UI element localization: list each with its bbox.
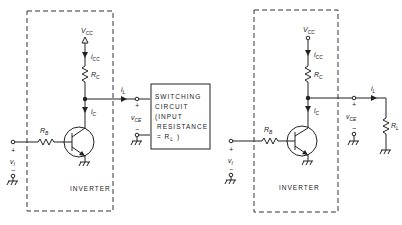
vi-minus: − [229, 166, 233, 173]
il-arrow-icon [371, 95, 377, 101]
vce-label: vCE [131, 114, 142, 123]
vce-label: vCE [346, 113, 357, 122]
box-line-2: CIRCUIT [155, 103, 188, 110]
emitter-ground-icon [302, 161, 313, 165]
ic-arrow-icon [305, 106, 311, 112]
vce-minus: − [352, 125, 356, 132]
right-circuit: VCC iCC RC iL RL iC [225, 10, 399, 212]
rc-resistor-icon [305, 66, 311, 82]
icc-label: iCC [91, 53, 100, 62]
icc-label: iCC [314, 51, 323, 60]
vcc-label: VCC [303, 26, 315, 35]
icc-arrow-icon [82, 52, 88, 58]
left-circuit: VCC iCC RC iL iC RB [7, 11, 210, 211]
box-line-5: = RL ) [157, 133, 180, 142]
vce-plus: + [352, 101, 356, 108]
icc-arrow-icon [305, 50, 311, 56]
vi-plus: + [229, 146, 233, 153]
il-label: iL [121, 86, 126, 95]
vcc-terminal-icon [82, 37, 88, 43]
output-terminal [135, 97, 139, 101]
vcc-terminal-icon [306, 36, 310, 40]
rc-label: RC [314, 71, 323, 80]
rc-label: RC [91, 71, 100, 80]
vi-minus: − [11, 167, 15, 174]
vcc-label: VCC [81, 27, 93, 36]
inverter-boundary [27, 11, 113, 211]
vi-label: vI [10, 158, 16, 167]
inverter-circuit-diagram: VCC iCC RC iL iC RB [0, 0, 402, 225]
inverter-label: INVERTER [279, 184, 320, 191]
inverter-label: INVERTER [70, 185, 111, 192]
rl-ground-icon [380, 150, 391, 154]
vce-ground-icon [348, 141, 359, 145]
rb-label: RB [264, 126, 273, 135]
rb-resistor-icon [38, 139, 54, 145]
rl-label: RL [391, 122, 399, 131]
input-ground-icon [7, 181, 18, 185]
rb-label: RB [40, 127, 49, 136]
rb-resistor-icon [262, 138, 278, 144]
ic-label: iC [91, 108, 97, 117]
vce-minus: − [135, 126, 139, 133]
vi-plus: + [11, 147, 15, 154]
ic-arrow-icon [82, 107, 88, 113]
input-terminal [11, 140, 15, 144]
input-terminal [229, 139, 233, 143]
input-ground-icon [225, 180, 236, 184]
vce-plus: + [135, 102, 139, 109]
box-line-1: SWITCHING [155, 93, 201, 100]
vce-ground-icon [131, 141, 142, 145]
emitter-ground-icon [79, 162, 90, 166]
ic-label: iC [314, 107, 320, 116]
output-terminal [352, 96, 356, 100]
inverter-boundary [254, 10, 338, 212]
il-label: iL [371, 85, 376, 94]
box-line-4: RESISTANCE [157, 123, 208, 130]
rl-resistor-icon [383, 118, 389, 134]
vi-label: vI [228, 157, 234, 166]
il-arrow-icon [121, 96, 127, 102]
box-line-3: (INPUT [155, 113, 183, 121]
rc-resistor-icon [82, 66, 88, 82]
